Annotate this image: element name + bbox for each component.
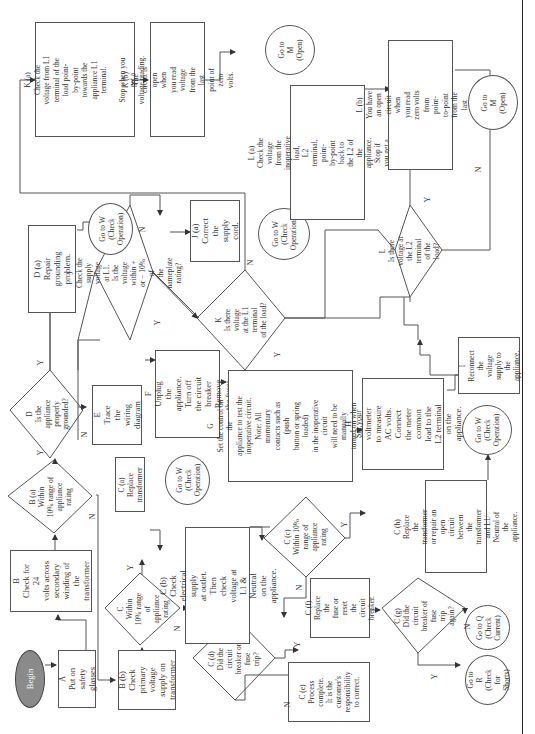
edge-label-no: N bbox=[138, 227, 147, 233]
node-E-trace-wiring: E Trace the wiring diagram bbox=[92, 385, 142, 445]
goto-M-2[interactable]: Go to M (Open) bbox=[468, 75, 518, 130]
edge-label-yes: Y bbox=[36, 360, 45, 366]
edge-label-yes: Y bbox=[430, 674, 439, 680]
node-Bb-check-primary: B (b) Check primary voltage supply on tr… bbox=[118, 650, 176, 710]
edge-label-no: N bbox=[173, 626, 182, 632]
decision-D: D Is the appliance properly grounded? bbox=[10, 370, 83, 458]
node-I-reconnect: I Reconnect the voltage supply to the ap… bbox=[458, 337, 520, 394]
decision-J: J Check the supply voltage at L1. Is the… bbox=[95, 205, 153, 340]
edge-label-no: N bbox=[283, 702, 292, 708]
goto-W-1[interactable]: Go to W (Check Operation) bbox=[165, 455, 210, 505]
node-Cf-replace-fuse: C (f) Replace the fuse or reset the circ… bbox=[310, 578, 370, 638]
goto-M-1[interactable]: Go to M (Open) bbox=[265, 25, 315, 75]
begin-terminal: Begin bbox=[15, 650, 45, 708]
edge-label-no: N bbox=[80, 432, 89, 438]
node-H-set-voltmeter: H Set your voltmeter to measure AC volts… bbox=[362, 378, 444, 470]
node-Kb-circuit-open: K (b) The circuit is open when you read … bbox=[150, 22, 205, 137]
decision-L: L Is there voltage at the L2 terminal of… bbox=[375, 205, 442, 297]
goto-W-4[interactable]: Go to W (Check Operation) bbox=[462, 405, 512, 455]
node-G-set-control: G Set the control on the appliance to te… bbox=[228, 370, 353, 482]
node-Ka-check-voltage-L1: K (a) Check the voltage from L1 terminal… bbox=[35, 22, 135, 137]
edge-label-no: N bbox=[88, 514, 97, 520]
node-A-safety-glasses: A Put on safety glasses bbox=[58, 650, 96, 708]
edge-label-no: N bbox=[474, 167, 483, 173]
edge-label-yes: Y bbox=[423, 197, 432, 203]
node-Ce-process-complete: C (e) Process complete. It is the custom… bbox=[288, 662, 370, 722]
edge-label-yes: Y bbox=[153, 320, 162, 326]
goto-R[interactable]: Go to R (Check for Shorts) bbox=[465, 655, 510, 705]
edge-label-no: N bbox=[246, 260, 255, 266]
decision-Cd: C (d) Did the circuit breaker or fuse tr… bbox=[193, 617, 275, 700]
node-B-check-24v: B Check for 24 volts across secondary wi… bbox=[10, 550, 92, 612]
edge-label-yes: Y bbox=[273, 352, 282, 358]
node-Lb-open-circuit: L (b) You have an open circuit when you … bbox=[388, 40, 453, 170]
edge-label-yes: Y bbox=[293, 642, 302, 648]
node-Ca-replace-transformer: C (a) Replace transformer bbox=[115, 457, 145, 512]
edge-label-yes: Y bbox=[36, 450, 45, 456]
flowchart-canvas: Begin A Put on safety glasses B Check fo… bbox=[0, 0, 535, 734]
page-border bbox=[522, 0, 523, 734]
decision-K: K Is there voltage at the L1 terminal of… bbox=[197, 270, 285, 370]
edge-label-yes: Y bbox=[340, 522, 349, 528]
edge-label-no: N bbox=[463, 624, 472, 630]
decision-Ba: B (a) Within 10% range of appliance rati… bbox=[8, 460, 92, 533]
node-Ja-correct-supply-cord: J (a) Correct the supply cord. bbox=[190, 200, 240, 262]
node-Ch-replace-transformer: C (h) Replace the transformer or repair … bbox=[425, 480, 487, 573]
edge-label-yes: Y bbox=[126, 565, 135, 571]
decision-Cc: C (c) Within 10% range of appliance rati… bbox=[264, 497, 345, 577]
edge-label-no: N bbox=[295, 585, 304, 591]
decision-Cg: C (g) Did the circuit breaker of fuse tr… bbox=[382, 578, 465, 653]
